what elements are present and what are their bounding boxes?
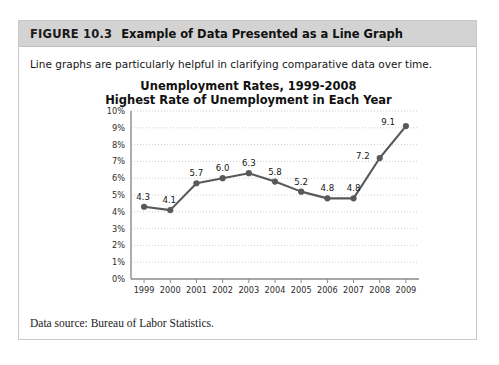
data-point-marker (272, 178, 278, 184)
data-point-label: 6.3 (242, 158, 256, 168)
data-point-label: 4.8 (347, 183, 361, 193)
y-axis-tick-label: 5% (112, 190, 125, 200)
x-axis-tick-label: 2003 (238, 285, 259, 295)
data-point-marker (377, 155, 383, 161)
figure-header: FIGURE 10.3 Example of Data Presented as… (19, 21, 476, 47)
x-axis-tick-label: 2001 (186, 285, 207, 295)
x-axis-tick-label: 2005 (291, 285, 312, 295)
x-axis-tick-label: 2000 (160, 285, 181, 295)
chart-title-line2: Highest Rate of Unemployment in Each Yea… (19, 93, 478, 107)
data-point-marker (167, 207, 173, 213)
y-axis-tick-label: 1% (112, 257, 125, 267)
data-point-label: 4.3 (136, 192, 150, 202)
line-chart: 10%9%8%7%6%5%4%3%2%1%0%19992000200120022… (19, 107, 478, 297)
y-axis-tick-label: 3% (112, 224, 125, 234)
data-point-label: 4.8 (321, 183, 335, 193)
x-axis-tick-label: 2007 (343, 285, 364, 295)
figure-screenshot: FIGURE 10.3 Example of Data Presented as… (0, 0, 499, 365)
x-axis-tick-label: 2004 (265, 285, 286, 295)
data-point-label: 5.2 (294, 177, 308, 187)
figure-card: FIGURE 10.3 Example of Data Presented as… (18, 20, 477, 340)
intro-text: Line graphs are particularly helpful in … (30, 57, 460, 71)
data-point-label: 4.1 (162, 195, 176, 205)
source-note: Data source: Bureau of Labor Statistics. (30, 317, 214, 329)
chart-title-line1: Unemployment Rates, 1999-2008 (140, 79, 356, 93)
y-axis-tick-label: 10% (107, 107, 125, 116)
y-axis-tick-label: 2% (112, 240, 125, 250)
data-point-marker (220, 175, 226, 181)
data-point-label: 9.1 (381, 117, 395, 127)
y-axis-tick-label: 8% (112, 140, 125, 150)
y-axis-tick-label: 7% (112, 156, 125, 166)
data-point-marker (246, 170, 252, 176)
data-point-label: 5.8 (268, 167, 282, 177)
x-axis-tick-label: 2008 (369, 285, 390, 295)
chart-title-block: Unemployment Rates, 1999-2008 Highest Ra… (19, 79, 478, 107)
data-point-label: 6.0 (216, 163, 230, 173)
data-point-marker (350, 195, 356, 201)
chart-container: Unemployment Rates, 1999-2008 Highest Ra… (19, 79, 478, 297)
y-axis-tick-label: 0% (112, 274, 125, 284)
data-point-marker (141, 204, 147, 210)
data-point-marker (298, 189, 304, 195)
data-point-marker (324, 195, 330, 201)
data-point-label: 5.7 (190, 168, 204, 178)
y-axis-tick-label: 9% (112, 123, 125, 133)
figure-label: FIGURE 10.3 (30, 27, 112, 41)
data-point-label: 7.2 (356, 151, 370, 161)
y-axis-tick-label: 6% (112, 173, 125, 183)
x-axis-tick-label: 1999 (134, 285, 155, 295)
x-axis-tick-label: 2006 (317, 285, 338, 295)
data-point-marker (193, 180, 199, 186)
y-axis-tick-label: 4% (112, 207, 125, 217)
figure-title: Example of Data Presented as a Line Grap… (121, 27, 403, 41)
data-point-marker (403, 123, 409, 129)
x-axis-tick-label: 2009 (395, 285, 416, 295)
x-axis-tick-label: 2002 (212, 285, 233, 295)
